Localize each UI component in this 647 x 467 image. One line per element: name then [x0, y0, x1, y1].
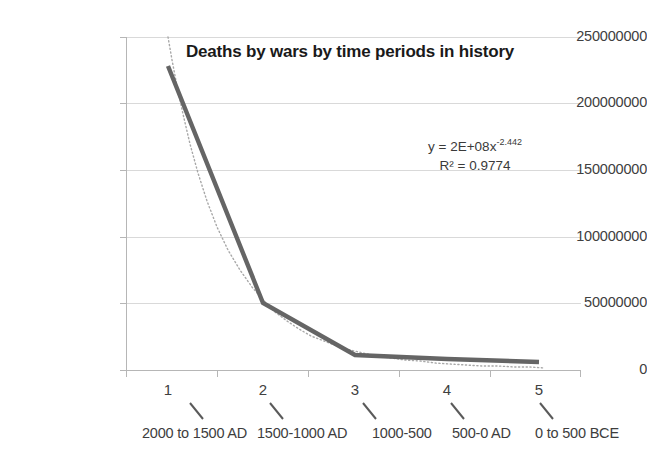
gridline-200000000	[127, 103, 581, 104]
period-label-3: 1000-500	[372, 425, 432, 441]
leader-line-period-2	[270, 403, 283, 419]
y-tick-mark	[120, 37, 126, 38]
y-axis-label-0: 0	[531, 361, 647, 377]
leader-line-period-3	[363, 403, 376, 419]
period-label-5: 0 to 500 BCE	[535, 425, 619, 441]
y-tick-mark	[120, 237, 126, 238]
x-axis-line	[126, 370, 580, 371]
period-label-1: 2000 to 1500 AD	[142, 425, 247, 441]
plot-area	[126, 37, 580, 370]
x-tick-mark	[308, 370, 309, 377]
y-axis-label-100000000: 100000000	[531, 228, 647, 244]
trendline-equation: y = 2E+08x-2.442	[395, 136, 555, 156]
x-axis-label-4: 4	[443, 381, 451, 398]
chart-title: Deaths by wars by time periods in histor…	[150, 42, 550, 62]
x-tick-mark	[580, 370, 581, 377]
equation-base: y = 2E+08x	[428, 139, 496, 154]
equation-exponent: -2.442	[496, 137, 522, 147]
gridline-250000000	[127, 37, 581, 38]
x-axis-label-5: 5	[535, 381, 543, 398]
leader-line-period-1	[190, 403, 203, 419]
y-axis-label-200000000: 200000000	[531, 94, 647, 110]
leader-line-period-4	[451, 403, 464, 419]
x-tick-mark	[399, 370, 400, 377]
x-axis-label-1: 1	[164, 381, 172, 398]
y-tick-mark	[120, 103, 126, 104]
trendline-equation-block: y = 2E+08x-2.442 R² = 0.9774	[395, 136, 555, 176]
x-tick-mark	[126, 370, 127, 377]
x-tick-mark	[490, 370, 491, 377]
y-tick-mark	[120, 303, 126, 304]
leader-line-period-5	[540, 403, 553, 419]
chart-container: 250000000 200000000 150000000 100000000 …	[0, 0, 647, 467]
y-axis-label-50000000: 50000000	[531, 294, 647, 310]
period-label-4: 500-0 AD	[452, 425, 511, 441]
r-squared-label: R² = 0.9774	[395, 156, 555, 176]
x-tick-mark	[217, 370, 218, 377]
x-axis-label-3: 3	[351, 381, 359, 398]
period-label-2: 1500-1000 AD	[257, 425, 347, 441]
x-axis-label-2: 2	[259, 381, 267, 398]
y-tick-mark	[120, 170, 126, 171]
gridline-50000000	[127, 303, 581, 304]
gridline-100000000	[127, 237, 581, 238]
